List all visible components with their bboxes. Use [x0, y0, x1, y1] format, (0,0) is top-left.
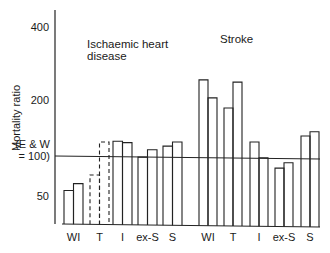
category-label: I	[257, 231, 260, 243]
category-label: WI	[201, 231, 214, 243]
bar	[199, 80, 208, 226]
y-axis-label: Mortality ratio	[10, 85, 22, 151]
category-label: ex-S	[136, 231, 159, 243]
panel-titles: Ischaemic heartdiseaseStroke	[87, 33, 253, 62]
reference-line	[55, 156, 320, 159]
bar	[90, 175, 100, 224]
bar	[275, 168, 284, 226]
category-label: S	[306, 231, 313, 243]
baseline	[62, 224, 320, 227]
category-label: WI	[67, 231, 80, 243]
bar	[310, 132, 319, 227]
bar	[233, 82, 242, 226]
bar	[148, 150, 158, 225]
bar	[208, 98, 217, 226]
bar	[163, 146, 173, 225]
bar	[284, 163, 293, 227]
bar	[224, 108, 233, 226]
category-label: T	[96, 231, 103, 243]
category-labels: WITIex-SSWITIex-SS	[67, 231, 314, 243]
category-label: ex-S	[273, 231, 296, 243]
bar	[250, 142, 259, 226]
bars	[64, 80, 319, 227]
bar	[259, 158, 268, 227]
category-label: T	[230, 231, 237, 243]
category-label: S	[169, 231, 176, 243]
bar	[113, 141, 123, 224]
panel-title: Ischaemic heart	[87, 38, 169, 50]
bar	[100, 142, 110, 224]
y-tick-label: 50	[37, 190, 49, 202]
panel-title: disease	[87, 50, 127, 62]
bar	[301, 136, 310, 227]
y-tick-label: 400	[31, 21, 49, 33]
bar	[173, 142, 183, 225]
reference-line-group	[55, 156, 320, 159]
y-tick-label: 200	[31, 94, 49, 106]
category-label: I	[121, 231, 124, 243]
bar	[123, 143, 133, 225]
panel-title: Stroke	[220, 33, 253, 45]
y-tick-label: = 100)	[19, 150, 51, 162]
bar	[64, 190, 74, 224]
bar	[74, 184, 84, 225]
mortality-ratio-chart: 400200(E & W= 100)50 Mortality ratio Isc…	[0, 0, 330, 253]
bar	[138, 157, 148, 225]
